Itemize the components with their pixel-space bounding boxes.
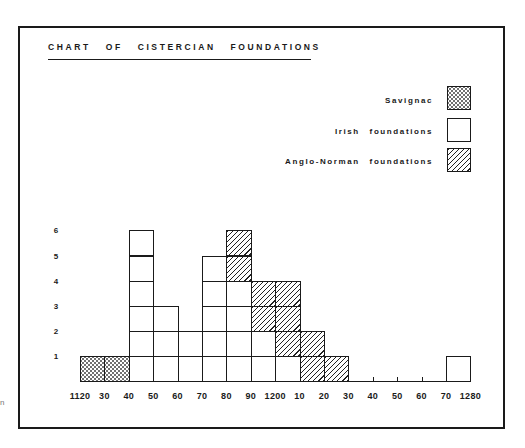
bar-cell-anglo-norman	[275, 331, 300, 357]
x-tick-label: 50	[392, 391, 403, 401]
legend-swatch-anglo-norman	[447, 148, 471, 172]
bar-cell-anglo-norman	[300, 331, 325, 357]
bar-cell-anglo-norman	[324, 356, 349, 382]
legend-label-savignac: Savignac	[385, 96, 433, 105]
x-tick-label: 80	[221, 391, 232, 401]
y-tick-label: 3	[51, 302, 61, 311]
bar-cell-anglo-norman	[251, 281, 276, 307]
x-tick-mark	[178, 377, 179, 381]
stray-text-fragment: n	[0, 398, 4, 407]
x-axis-line	[80, 381, 470, 382]
x-tick-label: 50	[148, 391, 159, 401]
bar-cell-irish	[153, 331, 178, 357]
x-tick-mark	[129, 377, 130, 381]
x-tick-label: 20	[319, 391, 330, 401]
y-tick-label: 6	[51, 226, 61, 235]
bar-cell-irish	[129, 306, 154, 332]
x-tick-mark	[104, 377, 105, 381]
bar-cell-irish	[275, 356, 300, 382]
x-tick-mark	[300, 377, 301, 381]
bar-cell-irish	[226, 331, 251, 357]
bar-cell-savignac	[104, 356, 129, 382]
x-tick-mark	[373, 377, 374, 381]
bar-cell-irish	[202, 331, 227, 357]
bar-cell-irish	[178, 356, 203, 382]
y-tick-label: 4	[51, 277, 61, 286]
bar-cell-irish	[129, 356, 154, 382]
bar-cell-irish	[153, 306, 178, 332]
bar-cell-irish	[153, 356, 178, 382]
y-tick-label: 2	[51, 327, 61, 336]
x-tick-mark	[80, 377, 81, 381]
x-tick-mark	[202, 377, 203, 381]
bar-cell-anglo-norman	[251, 306, 276, 332]
x-tick-label: 60	[416, 391, 427, 401]
legend-label-irish: Irish foundations	[335, 127, 433, 136]
bar-cell-irish	[202, 356, 227, 382]
x-tick-mark	[324, 377, 325, 381]
x-tick-label: 10	[294, 391, 305, 401]
bar-cell-irish	[446, 356, 471, 382]
x-tick-mark	[470, 377, 471, 381]
x-tick-mark	[446, 377, 447, 381]
x-tick-mark	[226, 377, 227, 381]
x-tick-label: 30	[343, 391, 354, 401]
bar-cell-irish	[226, 356, 251, 382]
bar-cell-anglo-norman	[300, 356, 325, 382]
x-tick-mark	[251, 377, 252, 381]
bar-cell-irish	[226, 306, 251, 332]
bar-cell-irish	[178, 331, 203, 357]
chart-title: CHART OF CISTERCIAN FOUNDATIONS	[48, 42, 321, 52]
bar-cell-irish	[202, 281, 227, 307]
bar-cell-irish	[129, 230, 154, 256]
bar-cell-irish	[202, 256, 227, 282]
bar-cell-irish	[202, 306, 227, 332]
x-tick-label: 90	[245, 391, 256, 401]
x-tick-mark	[397, 377, 398, 381]
bar-cell-anglo-norman	[226, 230, 251, 256]
bar-cell-anglo-norman	[275, 281, 300, 307]
legend-swatch-irish	[447, 118, 471, 142]
x-tick-label: 30	[99, 391, 110, 401]
bar-cell-irish	[251, 331, 276, 357]
bar-cell-irish	[251, 356, 276, 382]
x-tick-mark	[275, 377, 276, 381]
x-tick-label: 1120	[70, 391, 91, 401]
bar-cell-anglo-norman	[275, 306, 300, 332]
bar-cell-savignac	[80, 356, 105, 382]
x-tick-mark	[153, 377, 154, 381]
bar-cell-irish	[129, 256, 154, 282]
x-tick-mark	[348, 377, 349, 381]
legend-swatch-savignac	[447, 86, 471, 110]
x-tick-label: 1200	[265, 391, 286, 401]
y-tick-label: 1	[51, 352, 61, 361]
x-tick-label: 1280	[460, 391, 481, 401]
bar-cell-irish	[226, 281, 251, 307]
x-tick-label: 60	[172, 391, 183, 401]
x-tick-label: 70	[441, 391, 452, 401]
x-tick-label: 40	[123, 391, 134, 401]
bar-cell-anglo-norman	[226, 256, 251, 282]
bar-cell-irish	[129, 331, 154, 357]
x-tick-label: 70	[197, 391, 208, 401]
x-tick-mark	[422, 377, 423, 381]
x-tick-label: 40	[367, 391, 378, 401]
legend-label-anglo-norman: Anglo-Norman foundations	[285, 157, 433, 166]
bar-cell-irish	[129, 281, 154, 307]
title-underline	[48, 59, 311, 60]
y-tick-label: 5	[51, 252, 61, 261]
